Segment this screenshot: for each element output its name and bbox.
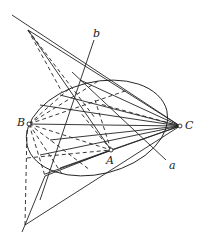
conic-ellipse <box>16 66 178 190</box>
point-C <box>178 124 182 128</box>
label-b: b <box>93 28 100 39</box>
point-A <box>109 148 113 152</box>
label-a: a <box>169 160 176 171</box>
point-B <box>27 122 31 126</box>
label-A: A <box>106 155 114 166</box>
label-C: C <box>185 120 193 131</box>
geometry-diagram <box>0 0 204 241</box>
label-B: B <box>17 117 25 128</box>
